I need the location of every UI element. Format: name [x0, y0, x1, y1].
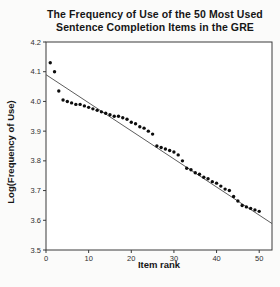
data-point — [223, 187, 226, 190]
data-point — [236, 199, 239, 202]
data-point — [198, 173, 201, 176]
data-point — [176, 153, 179, 156]
data-point — [91, 107, 94, 110]
data-point — [240, 204, 243, 207]
y-tick-label: 3.6 — [31, 216, 41, 225]
plot-frame — [46, 42, 272, 250]
data-point — [138, 125, 141, 128]
data-point — [100, 110, 103, 113]
x-tick-label: 0 — [44, 254, 48, 263]
data-point — [61, 98, 64, 101]
x-tick-label: 20 — [127, 254, 135, 263]
data-point — [206, 177, 209, 180]
data-point — [108, 113, 111, 116]
data-point — [168, 149, 171, 152]
data-point — [78, 103, 81, 106]
data-point — [125, 118, 128, 121]
x-tick-label: 40 — [212, 254, 220, 263]
data-point — [189, 168, 192, 171]
data-point — [159, 146, 162, 149]
data-point — [219, 184, 222, 187]
data-point — [185, 167, 188, 170]
data-point — [95, 109, 98, 112]
data-point — [155, 144, 158, 147]
data-point — [151, 132, 154, 135]
data-point — [164, 147, 167, 150]
y-axis-label: Log(Frequency of Use) — [5, 100, 16, 203]
data-point — [253, 208, 256, 211]
data-point — [181, 159, 184, 162]
data-point — [258, 210, 261, 213]
data-point — [211, 180, 214, 183]
data-point — [53, 70, 56, 73]
gre-frequency-chart: The Frequency of Use of the 50 Most Used… — [0, 0, 280, 287]
data-point — [134, 122, 137, 125]
data-point — [87, 106, 90, 109]
data-point — [172, 150, 175, 153]
data-point — [74, 103, 77, 106]
data-point — [249, 207, 252, 210]
x-axis-label: Item rank — [138, 259, 181, 270]
y-tick-label: 4.1 — [31, 67, 41, 76]
y-tick-label: 3.7 — [31, 186, 41, 195]
data-point — [194, 171, 197, 174]
y-tick-label: 3.9 — [31, 127, 41, 136]
data-point — [66, 100, 69, 103]
x-tick-label: 10 — [84, 254, 92, 263]
y-tick-label: 4.2 — [31, 38, 41, 47]
chart-canvas: 4.24.14.03.93.83.73.63.501020304050 Item… — [0, 0, 280, 287]
data-point — [130, 121, 133, 124]
data-point — [202, 176, 205, 179]
data-point — [49, 61, 52, 64]
data-point — [70, 101, 73, 104]
data-point — [147, 129, 150, 132]
y-tick-label: 3.5 — [31, 246, 41, 255]
y-tick-label: 3.8 — [31, 156, 41, 165]
data-point — [228, 189, 231, 192]
data-point — [113, 115, 116, 118]
data-point — [232, 195, 235, 198]
y-tick-label: 4.0 — [31, 97, 41, 106]
data-point — [104, 112, 107, 115]
data-point — [57, 89, 60, 92]
data-point — [83, 104, 86, 107]
data-point — [245, 205, 248, 208]
x-tick-label: 50 — [255, 254, 263, 263]
data-point — [142, 126, 145, 129]
data-point — [117, 115, 120, 118]
data-point — [215, 181, 218, 184]
data-point — [121, 116, 124, 119]
